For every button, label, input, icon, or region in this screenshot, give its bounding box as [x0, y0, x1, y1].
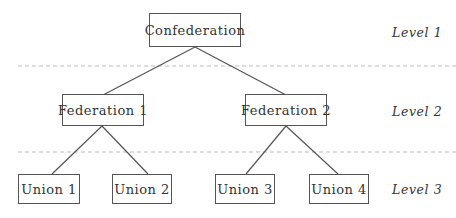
node-union-2: Union 2: [112, 174, 172, 204]
edge-fed2-u3: [246, 126, 286, 174]
node-union-1: Union 1: [18, 174, 80, 204]
node-label: Union 1: [21, 182, 77, 197]
edge-fed2-u4: [286, 126, 338, 174]
edge-root-fed2: [195, 47, 286, 95]
edge-fed1-u2: [102, 126, 148, 174]
node-label: Union 2: [114, 182, 170, 197]
node-label: Federation 2: [241, 103, 331, 118]
node-label: Union 4: [311, 182, 367, 197]
node-federation-2: Federation 2: [245, 94, 327, 126]
node-label: Union 3: [217, 182, 273, 197]
node-label: Federation 1: [58, 103, 148, 118]
node-federation-1: Federation 1: [62, 94, 144, 126]
node-label: Confederation: [145, 23, 246, 38]
edge-root-fed1: [103, 47, 195, 95]
node-union-4: Union 4: [309, 174, 369, 204]
node-confederation: Confederation: [149, 13, 241, 47]
node-union-3: Union 3: [215, 174, 275, 204]
level-3-label: Level 3: [392, 182, 442, 197]
edge-fed1-u1: [52, 126, 102, 174]
level-2-label: Level 2: [392, 104, 442, 119]
level-1-label: Level 1: [392, 25, 442, 40]
